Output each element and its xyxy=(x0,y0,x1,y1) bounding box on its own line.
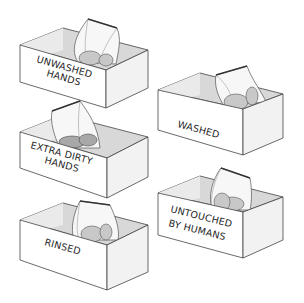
box-unwashed-hands: UNWASHED HANDS xyxy=(20,19,148,108)
box-untouched-by-humans: UNTOUCHED BY HUMANS xyxy=(158,168,283,258)
illustration-canvas: UNWASHED HANDS WASHED EXTRA DIRTY xyxy=(0,0,304,303)
plastic-bag xyxy=(51,101,100,148)
plastic-bag xyxy=(72,201,118,242)
plastic-bag xyxy=(210,168,251,211)
box-washed: WASHED xyxy=(158,66,283,155)
plastic-bag xyxy=(74,19,119,66)
box-rinsed: RINSED xyxy=(20,201,148,290)
box-extra-dirty-hands: EXTRA DIRTY HANDS xyxy=(20,101,148,198)
